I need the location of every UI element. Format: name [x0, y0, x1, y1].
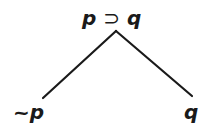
- right-leaf-formula: q: [184, 102, 198, 122]
- implication-operator: ⊃: [103, 6, 120, 30]
- left-branch-line: [43, 31, 116, 98]
- left-leaf-formula: ~p: [13, 102, 44, 122]
- right-branch-line: [116, 31, 192, 96]
- antecedent: p: [82, 6, 96, 30]
- consequent: q: [127, 6, 141, 30]
- root-formula: p ⊃ q: [82, 8, 141, 28]
